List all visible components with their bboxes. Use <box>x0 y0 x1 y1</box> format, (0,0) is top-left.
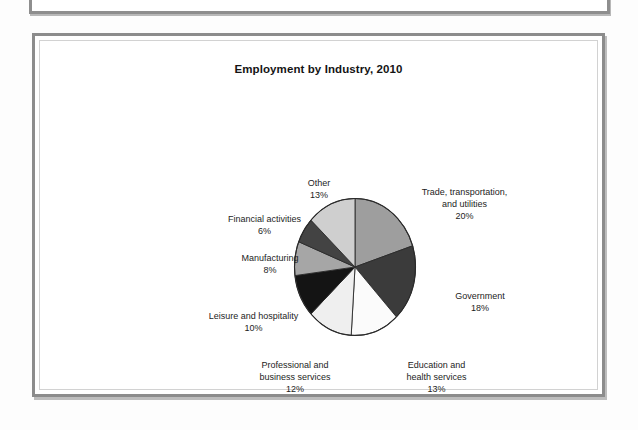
pie-label-trade-transportation-utilities: Trade, transportation, and utilities 20% <box>403 186 526 222</box>
scanned-page: Employment by Industry, 2010 Other 13% F… <box>0 0 638 430</box>
pie-label-other: Other 13% <box>283 177 355 201</box>
pie-label-leisure-hospitality-name: Leisure and hospitality <box>180 310 327 322</box>
pie-label-leisure-hospitality-value: 10% <box>180 322 327 334</box>
pie-label-financial-activities-value: 6% <box>203 225 326 237</box>
pie-label-education-health-services-line2: health services <box>384 371 489 383</box>
pie-label-financial-activities: Financial activities 6% <box>203 213 326 237</box>
pie-label-government-name: Government <box>439 290 521 302</box>
pie-label-financial-activities-name: Financial activities <box>203 213 326 225</box>
pie-label-government-value: 18% <box>439 302 521 314</box>
pie-label-manufacturing-value: 8% <box>218 264 322 276</box>
figure-inner-border: Employment by Industry, 2010 Other 13% F… <box>39 40 598 390</box>
pie-label-professional-business-services-line1: Professional and <box>240 359 350 371</box>
pie-label-education-health-services-value: 13% <box>384 383 489 395</box>
pie-label-government: Government 18% <box>439 290 521 314</box>
figure-frame: Employment by Industry, 2010 Other 13% F… <box>32 33 605 397</box>
pie-label-other-name: Other <box>283 177 355 189</box>
pie-label-manufacturing-name: Manufacturing <box>218 252 322 264</box>
pie-label-education-health-services: Education and health services 13% <box>384 359 489 395</box>
pie-label-professional-business-services: Professional and business services 12% <box>240 359 350 395</box>
pie-label-trade-transportation-utilities-line2: and utilities <box>403 198 526 210</box>
previous-figure-frame-fragment <box>29 0 610 14</box>
pie-label-trade-transportation-utilities-line1: Trade, transportation, <box>403 186 526 198</box>
pie-label-professional-business-services-value: 12% <box>240 383 350 395</box>
pie-label-education-health-services-line1: Education and <box>384 359 489 371</box>
pie-label-professional-business-services-line2: business services <box>240 371 350 383</box>
pie-label-trade-transportation-utilities-value: 20% <box>403 210 526 222</box>
pie-label-other-value: 13% <box>283 189 355 201</box>
pie-label-manufacturing: Manufacturing 8% <box>218 252 322 276</box>
page-title: Employment by Industry, 2010 <box>40 63 597 75</box>
pie-label-leisure-hospitality: Leisure and hospitality 10% <box>180 310 327 334</box>
